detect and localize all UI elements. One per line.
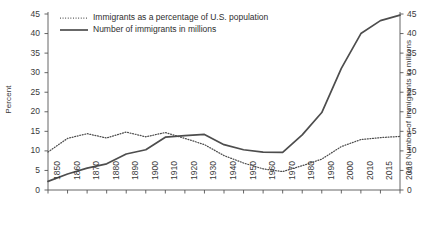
series-line-2 [48, 15, 400, 181]
left-axis-tick-label: 5 [18, 165, 40, 175]
x-axis-tick-label: 1860 [72, 161, 82, 195]
left-axis-tick-label: 20 [18, 106, 40, 116]
x-axis-tick-label: 1950 [248, 161, 258, 195]
x-axis-tick-label: 1920 [189, 161, 199, 195]
x-axis-tick-label: 1930 [208, 161, 218, 195]
right-axis-tick-label: 15 [407, 126, 429, 136]
left-axis-tick-label: 45 [18, 9, 40, 19]
right-axis-tick-label: 35 [407, 48, 429, 58]
right-axis-tick-label: 20 [407, 106, 429, 116]
left-axis-tick-label: 10 [18, 145, 40, 155]
left-axis-tick-label: 0 [18, 185, 40, 195]
x-axis-tick-label: 1970 [287, 161, 297, 195]
immigration-line-chart: Percent Number of immigrants in millions… [0, 0, 447, 232]
right-axis-tick-label: 10 [407, 145, 429, 155]
right-axis-tick-label: 25 [407, 87, 429, 97]
legend-label-2: Number of immigrants in millions [93, 24, 216, 34]
x-axis-tick-label: 1960 [267, 161, 277, 195]
x-axis-tick-label: 1880 [111, 161, 121, 195]
right-axis-tick-label: 45 [407, 9, 429, 19]
x-axis-tick-label: 1940 [228, 161, 238, 195]
x-axis-tick-label: 2010 [365, 161, 375, 195]
left-axis-tick-label: 35 [18, 48, 40, 58]
right-axis-tick-label: 40 [407, 28, 429, 38]
x-axis-tick-label: 2000 [345, 161, 355, 195]
x-axis-tick-label: 1980 [306, 161, 316, 195]
plot-area [0, 0, 447, 232]
x-axis-tick-label: 1850 [52, 161, 62, 195]
x-axis-tick-label: 1910 [169, 161, 179, 195]
x-axis-tick-label: 1870 [91, 161, 101, 195]
x-axis-tick-label: 2015 [384, 161, 394, 195]
legend-label-1: Immigrants as a percentage of U.S. popul… [93, 12, 268, 22]
left-axis-tick-label: 25 [18, 87, 40, 97]
left-axis-tick-label: 30 [18, 67, 40, 77]
x-axis-tick-label: 1900 [150, 161, 160, 195]
right-axis-tick-label: 30 [407, 67, 429, 77]
x-axis-tick-label: 2018 [404, 161, 414, 195]
left-axis-tick-label: 40 [18, 28, 40, 38]
x-axis-tick-label: 1990 [326, 161, 336, 195]
x-axis-tick-label: 1890 [130, 161, 140, 195]
left-axis-tick-label: 15 [18, 126, 40, 136]
